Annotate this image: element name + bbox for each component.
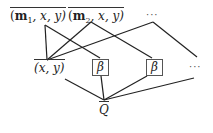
- node-Q: Q: [99, 101, 109, 117]
- edge-dots-Q: [104, 78, 194, 100]
- edge-dots-dots: [153, 22, 197, 57]
- node-mid-ellipsis: ···: [189, 61, 202, 72]
- edge-m1-xy: [45, 25, 47, 60]
- edge-beta2-Q: [104, 76, 147, 100]
- node-beta2: β: [146, 59, 163, 76]
- node-rest: , x, y): [90, 9, 124, 23]
- node-beta1: β: [92, 59, 109, 76]
- node-xy: (x, y): [34, 59, 65, 75]
- node-m2: (m2, x, y): [68, 7, 124, 28]
- node-m1: (m1, x, y): [10, 7, 66, 28]
- m-symbol: m: [73, 9, 86, 23]
- edge-m1-beta1: [45, 25, 100, 58]
- node-rest: , x, y): [32, 9, 66, 23]
- edge-beta1-Q: [101, 76, 104, 100]
- edge-xy-Q: [65, 79, 104, 100]
- node-top-ellipsis: ···: [146, 9, 159, 20]
- m-symbol: m: [15, 9, 28, 23]
